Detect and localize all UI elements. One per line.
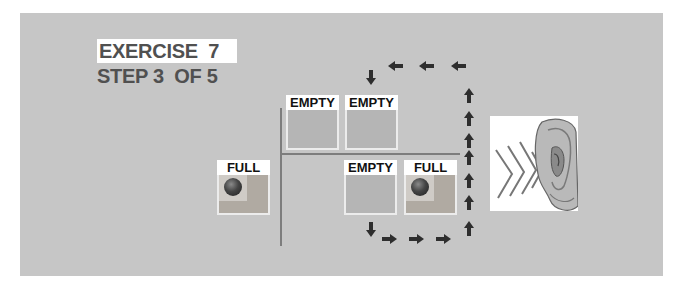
up-arrow-icon: [464, 195, 474, 210]
left-arrow-icon: [419, 61, 434, 71]
right-arrow-icon: [436, 234, 451, 244]
right-arrow-icon: [382, 234, 397, 244]
up-arrow-icon: [464, 88, 474, 103]
down-arrow-icon: [366, 70, 376, 85]
up-arrow-icon: [464, 133, 474, 148]
left-arrow-icon: [451, 61, 466, 71]
up-arrow-icon: [464, 150, 474, 165]
left-arrow-icon: [388, 61, 403, 71]
up-arrow-icon: [464, 173, 474, 188]
right-arrow-icon: [409, 234, 424, 244]
up-arrow-icon: [464, 111, 474, 126]
ear-listening-icon: [490, 116, 578, 211]
down-arrow-icon: [366, 222, 376, 237]
up-arrow-icon: [464, 221, 474, 236]
